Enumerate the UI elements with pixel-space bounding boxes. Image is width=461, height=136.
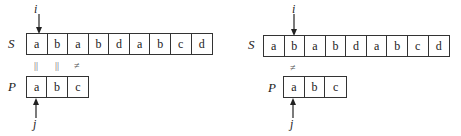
pattern-array: a b c [283, 76, 347, 98]
pattern-cell: c [325, 77, 346, 97]
mismatch-mark: ≠ [74, 60, 80, 71]
string-array: a b a b d a b c d [26, 33, 213, 55]
string-label: S [248, 37, 255, 53]
string-cell: a [130, 34, 151, 54]
string-cell: b [48, 34, 69, 54]
string-cell: b [285, 36, 306, 56]
string-cell: b [150, 34, 171, 54]
string-cell: d [429, 36, 450, 56]
pattern-cell: b [305, 77, 326, 97]
string-cell: c [408, 36, 429, 56]
string-array: a b a b d a b c d [263, 35, 450, 57]
string-cell: d [109, 34, 130, 54]
string-cell: b [326, 36, 347, 56]
string-cell: c [171, 34, 192, 54]
string-cell: b [387, 36, 408, 56]
string-cell: b [89, 34, 110, 54]
pattern-cell: a [284, 77, 305, 97]
mismatch-mark: ≠ [290, 62, 296, 73]
string-cell: d [346, 36, 367, 56]
string-cell: a [264, 36, 285, 56]
pattern-label: P [8, 79, 16, 95]
j-pointer-label: j [33, 117, 36, 132]
j-pointer-label: j [290, 117, 293, 132]
match-mark: || [55, 60, 59, 71]
pattern-cell: a [27, 77, 47, 97]
string-cell: a [68, 34, 89, 54]
pattern-cell: c [68, 77, 88, 97]
pattern-cell: b [47, 77, 67, 97]
string-cell: a [305, 36, 326, 56]
pattern-array: a b c [26, 76, 89, 98]
pattern-label: P [268, 80, 276, 96]
string-cell: a [27, 34, 48, 54]
string-label: S [8, 36, 15, 52]
string-cell: a [367, 36, 388, 56]
string-cell: d [192, 34, 213, 54]
match-mark: || [34, 60, 38, 71]
